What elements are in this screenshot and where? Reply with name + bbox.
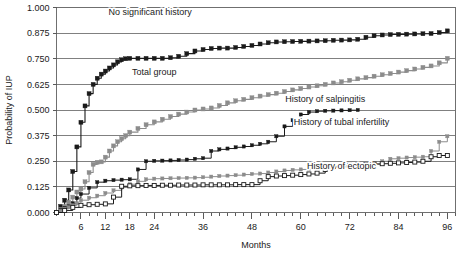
- series-marker: [209, 106, 213, 110]
- series-marker: [234, 174, 237, 177]
- series-marker: [283, 169, 286, 172]
- series-marker: [258, 142, 261, 145]
- series-marker: [161, 159, 164, 162]
- series-4: [55, 154, 450, 215]
- series-marker: [169, 115, 173, 119]
- series-marker: [152, 183, 156, 187]
- series-marker: [250, 144, 253, 147]
- y-tick-label: 0.875: [27, 28, 50, 38]
- series-marker: [218, 148, 221, 151]
- series-marker: [193, 176, 196, 179]
- series-marker: [59, 209, 62, 212]
- series-marker: [71, 195, 75, 199]
- series-marker: [112, 189, 115, 192]
- series-marker: [348, 78, 352, 82]
- series-marker: [103, 69, 107, 73]
- series-marker: [185, 110, 189, 114]
- series-marker: [234, 99, 238, 103]
- series-marker: [177, 183, 181, 187]
- series-marker: [210, 149, 213, 152]
- series-marker: [446, 135, 449, 138]
- series-marker: [348, 109, 351, 112]
- series-marker: [267, 140, 270, 143]
- series-marker: [258, 179, 262, 183]
- y-tick-label: 0.750: [27, 54, 50, 64]
- series-label-2: History of salpingitis: [285, 94, 366, 104]
- series-marker: [55, 211, 59, 215]
- series-marker: [315, 39, 319, 43]
- series-marker: [75, 197, 78, 200]
- series-marker: [242, 145, 245, 148]
- series-marker: [124, 57, 128, 61]
- series-marker: [380, 73, 384, 77]
- series-marker: [429, 155, 433, 159]
- series-marker: [437, 61, 441, 65]
- series-marker: [104, 191, 107, 194]
- y-tick-label: 0.625: [27, 80, 50, 90]
- y-tick-label: 1.000: [27, 3, 50, 13]
- x-tick-label: 6: [78, 222, 83, 232]
- series-marker: [234, 183, 238, 187]
- series-marker: [201, 157, 204, 160]
- series-marker: [128, 56, 132, 60]
- series-marker: [209, 183, 213, 187]
- series-marker: [267, 171, 270, 174]
- series-marker: [364, 76, 368, 80]
- series-marker: [291, 88, 295, 92]
- series-marker: [323, 39, 327, 43]
- series-marker: [429, 149, 432, 152]
- series-marker: [226, 183, 230, 187]
- series-marker: [144, 160, 147, 163]
- series-marker: [274, 174, 278, 178]
- series-marker: [193, 157, 196, 160]
- series-marker: [331, 38, 335, 42]
- series-marker: [299, 168, 302, 171]
- series-marker: [136, 168, 139, 171]
- series-marker: [67, 188, 71, 192]
- series-marker: [160, 183, 164, 187]
- y-tick-label: 0.000: [27, 208, 50, 218]
- series-marker: [437, 31, 441, 35]
- series-marker: [99, 72, 103, 76]
- series-marker: [283, 174, 287, 178]
- series-marker: [307, 85, 311, 89]
- x-tick-label: 84: [393, 222, 403, 232]
- series-marker: [315, 171, 319, 175]
- series-label-0: No significant history: [109, 7, 193, 17]
- series-marker: [79, 203, 83, 207]
- series-marker: [120, 184, 124, 188]
- series-marker: [103, 155, 107, 159]
- series-marker: [258, 94, 262, 98]
- series-marker: [380, 162, 384, 166]
- series-marker: [299, 39, 303, 43]
- series-marker: [250, 183, 254, 187]
- series-marker: [104, 179, 107, 182]
- series-marker: [153, 177, 156, 180]
- series-marker: [429, 64, 433, 68]
- y-axis: 0.0000.1250.2500.3750.5000.6250.7500.875…: [27, 3, 57, 218]
- series-marker: [75, 145, 79, 149]
- series-marker: [364, 35, 368, 39]
- x-tick-label: 18: [125, 222, 135, 232]
- series-marker: [201, 183, 205, 187]
- series-marker: [421, 32, 425, 36]
- series-marker: [107, 149, 111, 153]
- series-marker: [226, 147, 229, 150]
- series-marker: [79, 187, 83, 191]
- series-marker: [242, 173, 245, 176]
- kaplan-meier-chart: 0.0000.1250.2500.3750.5000.6250.7500.875…: [0, 0, 464, 262]
- series-marker: [169, 183, 173, 187]
- series-marker: [185, 158, 188, 161]
- series-marker: [274, 91, 278, 95]
- x-axis-title: Months: [241, 240, 271, 250]
- series-marker: [136, 180, 139, 183]
- series-marker: [169, 177, 172, 180]
- series-marker: [356, 108, 359, 111]
- series-marker: [96, 194, 99, 197]
- x-tick-label: 24: [149, 222, 159, 232]
- series-marker: [160, 117, 164, 121]
- series-marker: [116, 60, 120, 64]
- series-marker: [152, 120, 156, 124]
- series-marker: [144, 183, 148, 187]
- series-marker: [91, 162, 95, 166]
